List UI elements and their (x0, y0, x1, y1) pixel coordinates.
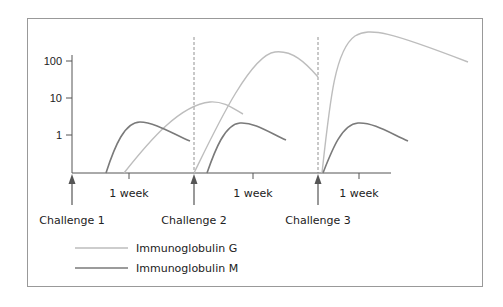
igg-series (124, 32, 468, 173)
challenge-1-arrow-icon (69, 174, 76, 205)
week-label-3: 1 week (339, 187, 379, 200)
week-label-1: 1 week (109, 187, 149, 200)
legend-igm-label: Immunoglobulin M (136, 262, 238, 275)
challenge-3-arrow-icon (315, 174, 322, 205)
igm-series (106, 122, 408, 173)
igm-curve-1 (106, 122, 190, 173)
igm-curve-3 (323, 123, 408, 173)
legend-igg-label: Immunoglobulin G (136, 242, 237, 255)
igg-curve-3 (322, 32, 468, 173)
igm-curve-2 (207, 123, 286, 173)
y-label-100: 100 (44, 55, 62, 67)
challenge-2-label: Challenge 2 (161, 214, 227, 227)
challenge-2-arrow-icon (191, 174, 198, 205)
diagram-frame (28, 19, 483, 287)
challenge-3-label: Challenge 3 (285, 214, 351, 227)
immune-response-diagram: 100 10 1 1 week 1 week 1 week Challenge … (0, 0, 503, 307)
week-label-2: 1 week (233, 187, 273, 200)
igg-curve-2 (194, 52, 318, 173)
challenge-1-label: Challenge 1 (39, 214, 105, 227)
y-label-1: 1 (56, 129, 62, 141)
y-label-10: 10 (50, 92, 62, 104)
